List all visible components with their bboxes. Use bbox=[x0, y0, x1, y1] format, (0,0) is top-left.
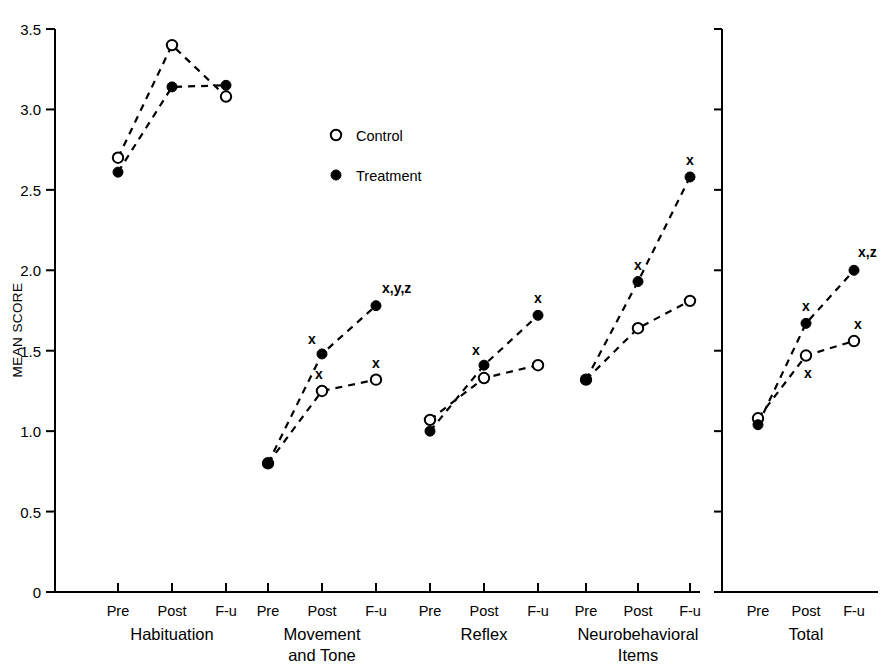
panel-label: Items bbox=[618, 646, 658, 664]
mean-score-multi-panel-chart: 00.51.01.52.02.53.03.5MEAN SCOREPrePostF… bbox=[0, 0, 884, 672]
data-point-treatment bbox=[685, 172, 695, 182]
panel-label: Neurobehavioral bbox=[577, 625, 698, 643]
data-point-treatment bbox=[533, 310, 543, 320]
data-point-control bbox=[801, 350, 811, 360]
data-point-treatment bbox=[317, 349, 327, 359]
data-point-control bbox=[317, 386, 327, 396]
y-axis-title: MEAN SCORE bbox=[10, 283, 25, 378]
data-point-treatment bbox=[479, 360, 489, 370]
x-axis-category-label: F-u bbox=[365, 603, 387, 619]
data-point-control bbox=[371, 374, 381, 384]
significance-annotation: x,z bbox=[858, 244, 877, 260]
figure-container: 00.51.01.52.02.53.03.5MEAN SCOREPrePostF… bbox=[0, 0, 884, 672]
panel-label: Movement bbox=[283, 625, 360, 643]
data-point-control bbox=[221, 91, 231, 101]
x-axis-category-label: Post bbox=[157, 603, 186, 619]
panel-total: PrePostF-uTotalxxxx,z bbox=[747, 244, 877, 643]
x-axis-category-label: F-u bbox=[215, 603, 237, 619]
y-axis-tick-label: 0 bbox=[33, 584, 41, 601]
data-point-treatment bbox=[633, 277, 643, 287]
series-line-treatment bbox=[758, 270, 854, 424]
data-point-treatment bbox=[371, 301, 381, 311]
panel-label: Total bbox=[789, 625, 824, 643]
data-point-treatment bbox=[263, 458, 273, 468]
significance-annotation: x bbox=[308, 331, 316, 347]
data-point-control bbox=[849, 336, 859, 346]
data-point-treatment bbox=[425, 426, 435, 436]
panel-label: Habituation bbox=[130, 625, 213, 643]
data-point-treatment bbox=[581, 375, 591, 385]
significance-annotation: x bbox=[804, 365, 812, 381]
data-point-treatment bbox=[167, 82, 177, 92]
x-axis-category-label: Pre bbox=[575, 603, 598, 619]
panel-reflex: PrePostF-uReflexxx bbox=[419, 290, 549, 643]
significance-annotation: x bbox=[802, 298, 810, 314]
significance-annotation: x bbox=[686, 152, 694, 168]
series-line-control bbox=[118, 45, 226, 158]
x-axis-category-label: Post bbox=[791, 603, 820, 619]
data-point-control bbox=[633, 323, 643, 333]
legend-marker-treatment bbox=[331, 170, 341, 180]
significance-annotation: x bbox=[534, 290, 542, 306]
x-axis-category-label: Pre bbox=[107, 603, 130, 619]
y-axis-tick-label: 2.5 bbox=[20, 182, 41, 199]
data-point-treatment bbox=[849, 265, 859, 275]
significance-annotation: x bbox=[372, 355, 380, 371]
data-point-treatment bbox=[801, 318, 811, 328]
panel-habituation: PrePostF-uHabituation bbox=[107, 40, 237, 643]
y-axis-tick-label: 3.0 bbox=[20, 101, 41, 118]
significance-annotation: x bbox=[315, 366, 323, 382]
panel-label: and Tone bbox=[288, 646, 356, 664]
x-axis-category-label: Post bbox=[623, 603, 652, 619]
data-point-treatment bbox=[221, 80, 231, 90]
data-point-control bbox=[425, 415, 435, 425]
series-line-treatment bbox=[118, 85, 226, 172]
x-axis-category-label: Pre bbox=[257, 603, 280, 619]
legend-label-treatment: Treatment bbox=[356, 168, 422, 184]
x-axis-category-label: Pre bbox=[419, 603, 442, 619]
data-point-control bbox=[113, 152, 123, 162]
x-axis-category-label: F-u bbox=[679, 603, 701, 619]
panel-label: Reflex bbox=[461, 625, 509, 643]
data-point-control bbox=[167, 40, 177, 50]
panel-neurobehavioral-items: PrePostF-uNeurobehavioralItemsxx bbox=[575, 152, 701, 664]
significance-annotation: x bbox=[472, 342, 480, 358]
x-axis-category-label: Post bbox=[307, 603, 336, 619]
y-axis-tick-label: 2.0 bbox=[20, 262, 41, 279]
data-point-control bbox=[533, 360, 543, 370]
data-point-treatment bbox=[753, 420, 763, 430]
y-axis-tick-label: 3.5 bbox=[20, 21, 41, 38]
x-axis-category-label: F-u bbox=[843, 603, 865, 619]
legend-label-control: Control bbox=[356, 128, 403, 144]
x-axis-category-label: Post bbox=[469, 603, 498, 619]
significance-annotation: x bbox=[634, 257, 642, 273]
panel-movement-and-tone: PrePostF-uMovementand Tonexxxx,y,z bbox=[257, 280, 412, 664]
data-point-control bbox=[685, 296, 695, 306]
y-axis-tick-label: 1.0 bbox=[20, 423, 41, 440]
data-point-treatment bbox=[113, 167, 123, 177]
data-point-control bbox=[479, 373, 489, 383]
legend: ControlTreatment bbox=[331, 128, 422, 184]
series-line-control bbox=[586, 301, 690, 380]
x-axis-category-label: Pre bbox=[747, 603, 770, 619]
significance-annotation: x bbox=[854, 316, 862, 332]
significance-annotation: x,y,z bbox=[382, 280, 411, 296]
legend-marker-control bbox=[331, 130, 341, 140]
y-axis-tick-label: 0.5 bbox=[20, 504, 41, 521]
series-line-treatment bbox=[268, 306, 376, 464]
x-axis-category-label: F-u bbox=[527, 603, 549, 619]
